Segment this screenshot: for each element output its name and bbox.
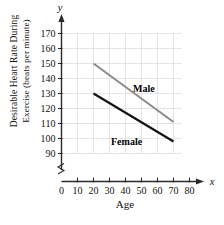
x-tick-label: 80 [185,185,195,196]
x-axis-title: Age [60,198,190,210]
x-tick-label: 70 [169,185,179,196]
x-axis-line [62,178,205,184]
chart-figure: 90100110120130140150160170 0102030405060… [0,0,224,225]
y-tick-label: 100 [41,133,56,144]
y-axis-line [58,14,64,170]
y-tick-label: 110 [41,118,56,129]
x-tick-label: 30 [105,185,115,196]
series-line-female [94,94,174,142]
y-tick-label: 90 [46,148,56,159]
y-tick-label: 120 [41,103,56,114]
y-tick-label: 130 [41,88,56,99]
y-axis-break-icon [58,164,64,175]
data-series-lines [94,64,174,142]
x-tick-label: 0 [59,185,64,196]
y-tick-label: 170 [41,28,56,39]
x-tick-label: 40 [121,185,131,196]
series-label-male: Male [133,83,155,94]
chart-plot-area: 90100110120130140150160170 0102030405060… [0,0,224,225]
x-tick-label: 60 [153,185,163,196]
y-axis-ticks: 90100110120130140150160170 [41,28,63,159]
series-label-female: Female [111,136,143,147]
x-tick-label: 50 [137,185,147,196]
y-axis-variable-label: y [57,2,63,13]
y-tick-label: 160 [41,43,56,54]
x-axis-variable-label: x [209,176,215,187]
y-tick-label: 140 [41,73,56,84]
x-tick-label: 10 [73,185,83,196]
x-axis-ticks: 01020304050607080 [59,178,195,197]
y-tick-label: 150 [41,58,56,69]
x-tick-label: 20 [89,185,99,196]
